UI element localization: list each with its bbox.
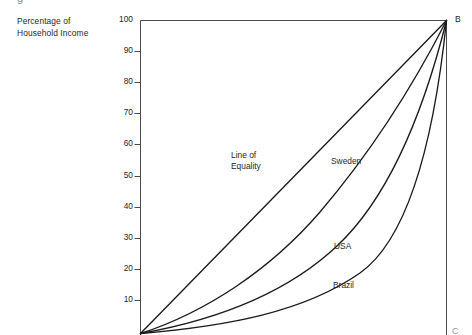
- y-tick-label-80: 80: [103, 77, 133, 86]
- y-tick-label-90: 90: [103, 46, 133, 55]
- curve-label-usa: USA: [334, 241, 351, 252]
- y-tick-label-40: 40: [103, 202, 133, 211]
- y-tick-label-20: 20: [103, 264, 133, 273]
- cropped-caption-glyph-bottom: C: [452, 327, 459, 335]
- y-axis-ticks: [135, 52, 141, 301]
- y-tick-label-100: 100: [103, 15, 133, 24]
- y-tick-label-60: 60: [103, 139, 133, 148]
- figure-canvas: g Percentage of Household Income 100 90 …: [0, 0, 472, 335]
- y-tick-label-50: 50: [103, 171, 133, 180]
- curve-label-line-of-equality: Line of Equality: [231, 150, 261, 173]
- curve-lines: [141, 21, 447, 334]
- y-tick-label-70: 70: [103, 108, 133, 117]
- corner-label-b: B: [455, 15, 461, 24]
- y-tick-label-30: 30: [103, 233, 133, 242]
- curve-label-sweden: Sweden: [331, 156, 361, 167]
- curve-line-of-equality: [141, 21, 447, 334]
- curve-label-brazil: Brazil: [333, 280, 354, 291]
- y-tick-label-10: 10: [103, 295, 133, 304]
